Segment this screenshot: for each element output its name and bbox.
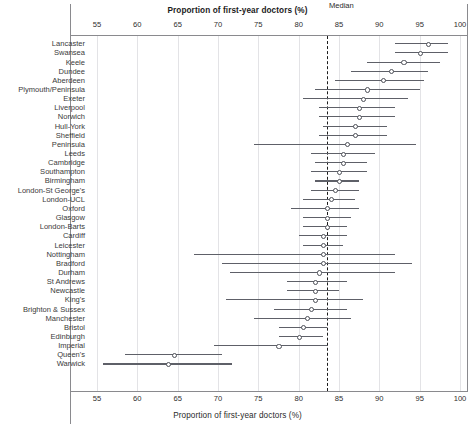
data-point-marker [301, 325, 306, 330]
x-tick-90: 90 [359, 394, 399, 403]
plot-row: Swansea [89, 48, 468, 57]
row-label-queen-s: Queen's [57, 350, 85, 359]
x-tick-55: 55 [77, 20, 117, 29]
plot-row: Plymouth/Peninsula [89, 85, 468, 94]
row-label-norwich: Norwich [58, 112, 85, 121]
data-point-marker [325, 206, 330, 211]
data-point-marker [345, 142, 350, 147]
plot-row: Manchester [89, 314, 468, 323]
plot-row: London-UCL [89, 195, 468, 204]
x-tick-75: 75 [238, 394, 278, 403]
data-point-marker [325, 225, 330, 230]
forest-plot-chart: Proportion of first-year doctors (%) Pro… [0, 0, 475, 429]
confidence-interval-bar [254, 144, 415, 145]
data-point-marker [357, 106, 362, 111]
row-label-warwick: Warwick [57, 359, 85, 368]
x-tick-85: 85 [319, 20, 359, 29]
plot-row: Dundee [89, 67, 468, 76]
x-tick-95: 95 [400, 20, 440, 29]
row-label-dundee: Dundee [59, 67, 85, 76]
data-point-marker [321, 243, 326, 248]
data-point-marker [337, 170, 342, 175]
data-point-marker [325, 216, 330, 221]
data-point-marker [357, 115, 362, 120]
row-label-hull-york: Hull-York [55, 122, 85, 131]
row-label-exeter: Exeter [63, 94, 85, 103]
x-tick-80: 80 [279, 20, 319, 29]
plot-row: Edinburgh [89, 332, 468, 341]
plot-row: Aberdeen [89, 76, 468, 85]
row-label-st-andrews: St Andrews [47, 277, 85, 286]
data-point-marker [337, 179, 342, 184]
row-label-cardiff: Cardiff [63, 231, 85, 240]
data-point-marker [309, 307, 314, 312]
confidence-interval-bar [226, 299, 363, 300]
confidence-interval-bar [254, 318, 351, 319]
row-label-lancaster: Lancaster [52, 39, 85, 48]
data-point-marker [333, 188, 338, 193]
x-tick-60: 60 [117, 20, 157, 29]
data-point-marker [341, 152, 346, 157]
plot-row: Bradford [89, 259, 468, 268]
data-point-marker [172, 353, 177, 358]
row-label-oxford: Oxford [62, 204, 85, 213]
row-label-nottingham: Nottingham [46, 250, 85, 259]
row-label-sheffield: Sheffield [56, 131, 85, 140]
x-tick-85: 85 [319, 394, 359, 403]
x-tick-100: 100 [440, 394, 475, 403]
confidence-interval-bar [214, 345, 327, 346]
confidence-interval-bar [303, 98, 408, 99]
data-point-marker [321, 234, 326, 239]
plot-area: LancasterSwanseaKeeleDundeeAberdeenPlymo… [89, 36, 468, 391]
x-tick-65: 65 [158, 394, 198, 403]
data-point-marker [381, 78, 386, 83]
row-label-leeds: Leeds [64, 149, 85, 158]
data-point-marker [426, 42, 431, 47]
row-label-king-s: King's [65, 295, 85, 304]
row-label-london-ucl: London-UCL [42, 195, 85, 204]
x-tick-70: 70 [198, 20, 238, 29]
data-point-marker [313, 289, 318, 294]
plot-row: Imperial [89, 341, 468, 350]
median-annotation-label: Median [329, 1, 354, 10]
x-tick-70: 70 [198, 394, 238, 403]
plot-row: London-Barts [89, 222, 468, 231]
row-label-plymouth-peninsula: Plymouth/Peninsula [18, 85, 85, 94]
confidence-interval-bar [335, 80, 424, 81]
x-tick-95: 95 [400, 394, 440, 403]
plot-row: Liverpool [89, 103, 468, 112]
row-label-glasgow: Glasgow [56, 213, 85, 222]
x-axis-label-bottom: Proportion of first-year doctors (%) [0, 411, 475, 420]
plot-row: Keele [89, 58, 468, 67]
plot-row: Birmingham [89, 176, 468, 185]
plot-row: Glasgow [89, 213, 468, 222]
data-point-marker [321, 252, 326, 257]
plot-row: Nottingham [89, 250, 468, 259]
axis-spine-bottom [70, 391, 468, 392]
plot-row: Exeter [89, 94, 468, 103]
data-point-marker [389, 69, 394, 74]
row-label-peninsula: Peninsula [52, 140, 85, 149]
plot-row: King's [89, 295, 468, 304]
x-tick-60: 60 [117, 394, 157, 403]
plot-row: St Andrews [89, 277, 468, 286]
x-tick-65: 65 [158, 20, 198, 29]
plot-row: Oxford [89, 204, 468, 213]
row-label-cambridge: Cambridge [48, 158, 85, 167]
data-point-marker [317, 270, 322, 275]
plot-row: Lancaster [89, 39, 468, 48]
plot-row: Peninsula [89, 140, 468, 149]
x-tick-90: 90 [359, 20, 399, 29]
data-point-marker [418, 51, 423, 56]
row-label-birmingham: Birmingham [45, 176, 85, 185]
row-label-liverpool: Liverpool [54, 103, 85, 112]
confidence-interval-bar [395, 43, 447, 44]
data-point-marker [329, 197, 334, 202]
plot-row: Bristol [89, 323, 468, 332]
plot-row: London-St George's [89, 186, 468, 195]
plot-row: Leeds [89, 149, 468, 158]
data-point-marker [361, 97, 366, 102]
plot-row: Cardiff [89, 231, 468, 240]
row-label-bristol: Bristol [64, 323, 85, 332]
confidence-interval-bar [194, 254, 396, 255]
